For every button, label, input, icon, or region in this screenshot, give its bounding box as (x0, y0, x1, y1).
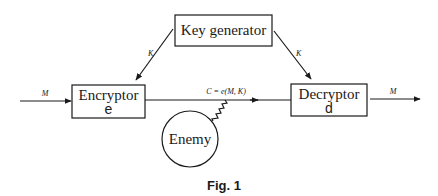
enemy-node: Enemy (162, 111, 218, 167)
wiretap-icon (212, 100, 227, 121)
encryptor-symbol: e (105, 101, 113, 117)
input-message-label: M (41, 89, 50, 98)
key-generator-label: Key generator (181, 22, 266, 38)
enemy-tap-edge (212, 100, 227, 121)
decryptor-symbol: d (325, 100, 333, 116)
decryptor-node: Decryptor d (291, 84, 367, 116)
encryptor-node: Encryptor e (72, 85, 145, 118)
arrow-icon (274, 31, 311, 79)
cryptosystem-diagram: Key generator Encryptor e Decryptor d En… (0, 0, 438, 196)
keygen-to-encryptor-edge: K (136, 29, 173, 80)
keygen-to-decryptor-edge: K (274, 31, 311, 79)
output-message-label: M (389, 87, 398, 96)
figure-caption: Fig. 1 (207, 178, 241, 193)
enemy-label: Enemy (169, 131, 212, 147)
ciphertext-edge: C = e(M, K) (145, 87, 291, 100)
keygen-to-encryptor-label: K (147, 49, 154, 58)
output-message-edge: M (370, 87, 420, 99)
ciphertext-label: C = e(M, K) (206, 87, 246, 96)
key-generator-node: Key generator (175, 15, 272, 46)
input-message-edge: M (20, 89, 71, 101)
keygen-to-decryptor-label: K (295, 49, 302, 58)
arrow-icon (136, 29, 173, 80)
